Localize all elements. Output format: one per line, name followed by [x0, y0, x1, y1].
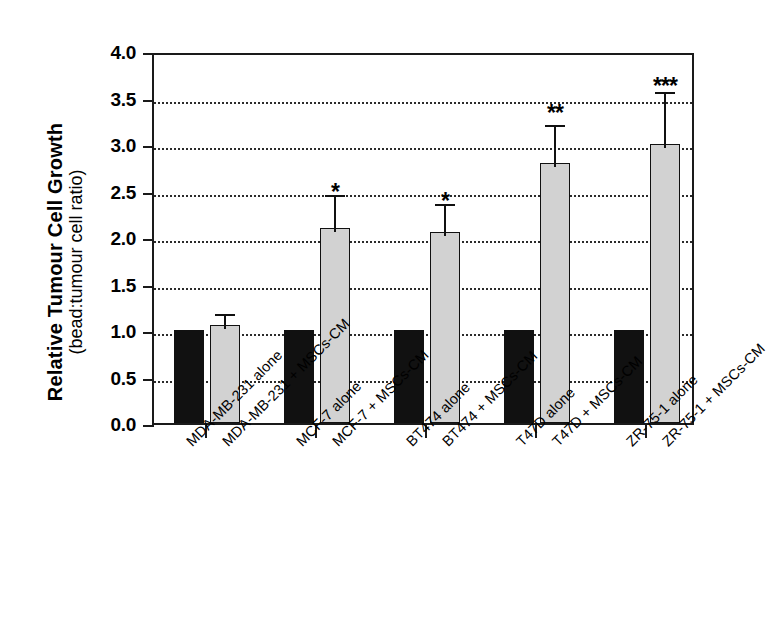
gridline [154, 195, 692, 197]
error-bar-stem [664, 92, 666, 148]
error-bar-cap [215, 314, 235, 316]
y-axis-tick-label: 2.5 [82, 182, 136, 204]
y-axis-tick-label: 3.5 [82, 89, 136, 111]
significance-marker: ** [547, 102, 563, 125]
significance-marker: *** [653, 75, 677, 98]
y-axis-tick-label: 0.5 [82, 368, 136, 390]
gridline [154, 241, 692, 243]
error-bar-stem [224, 314, 226, 330]
plot-area: ******* [152, 53, 694, 425]
y-axis-title: Relative Tumour Cell Growth (bead:tumour… [34, 72, 96, 452]
y-axis-tick-label: 1.5 [82, 275, 136, 297]
y-axis-tick-label: 0.0 [82, 414, 136, 436]
error-bar [210, 314, 240, 330]
gridline [154, 102, 692, 104]
y-axis-tick-label: 2.0 [82, 228, 136, 250]
significance-marker: * [441, 190, 449, 213]
y-axis-tick-label: 1.0 [82, 321, 136, 343]
y-axis-tick-label: 3.0 [82, 135, 136, 157]
gridline [154, 288, 692, 290]
error-bar [650, 92, 680, 148]
bar-control [174, 330, 204, 423]
y-axis-tick-mark [143, 425, 154, 427]
gridline [154, 148, 692, 150]
y-axis-tick-label: 4.0 [82, 42, 136, 64]
bar-treatment [650, 144, 680, 423]
error-bar-stem [554, 125, 556, 167]
significance-marker: * [331, 181, 339, 204]
y-axis-title-main: Relative Tumour Cell Growth [44, 123, 66, 401]
error-bar [540, 125, 570, 167]
